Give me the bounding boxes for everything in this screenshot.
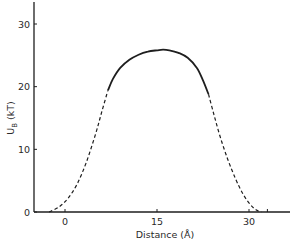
y-axis-label-main: U [5, 128, 16, 135]
x-tick-label: 15 [151, 216, 163, 227]
curves [49, 50, 261, 212]
y-tick-label: 30 [18, 19, 30, 30]
barrier-curve-dashed [49, 90, 108, 212]
axes: 010203001530 [18, 2, 290, 227]
x-tick-label: 0 [62, 216, 68, 227]
y-tick-label: 10 [18, 144, 30, 155]
plot-svg: 010203001530 Distance (Å) UB(kT) [0, 0, 296, 248]
y-tick-label: 0 [24, 207, 30, 218]
barrier-energy-chart: 010203001530 Distance (Å) UB(kT) [0, 0, 296, 248]
x-tick-label: 30 [243, 216, 255, 227]
x-axis-label: Distance (Å) [136, 229, 194, 240]
y-axis-label-unit: (kT) [5, 101, 16, 120]
barrier-curve-dashed [209, 94, 262, 212]
y-axis-label: UB(kT) [5, 101, 19, 135]
y-tick-label: 20 [18, 81, 30, 92]
barrier-curve-solid [108, 50, 209, 94]
y-axis-label-subscript: B [11, 123, 19, 128]
